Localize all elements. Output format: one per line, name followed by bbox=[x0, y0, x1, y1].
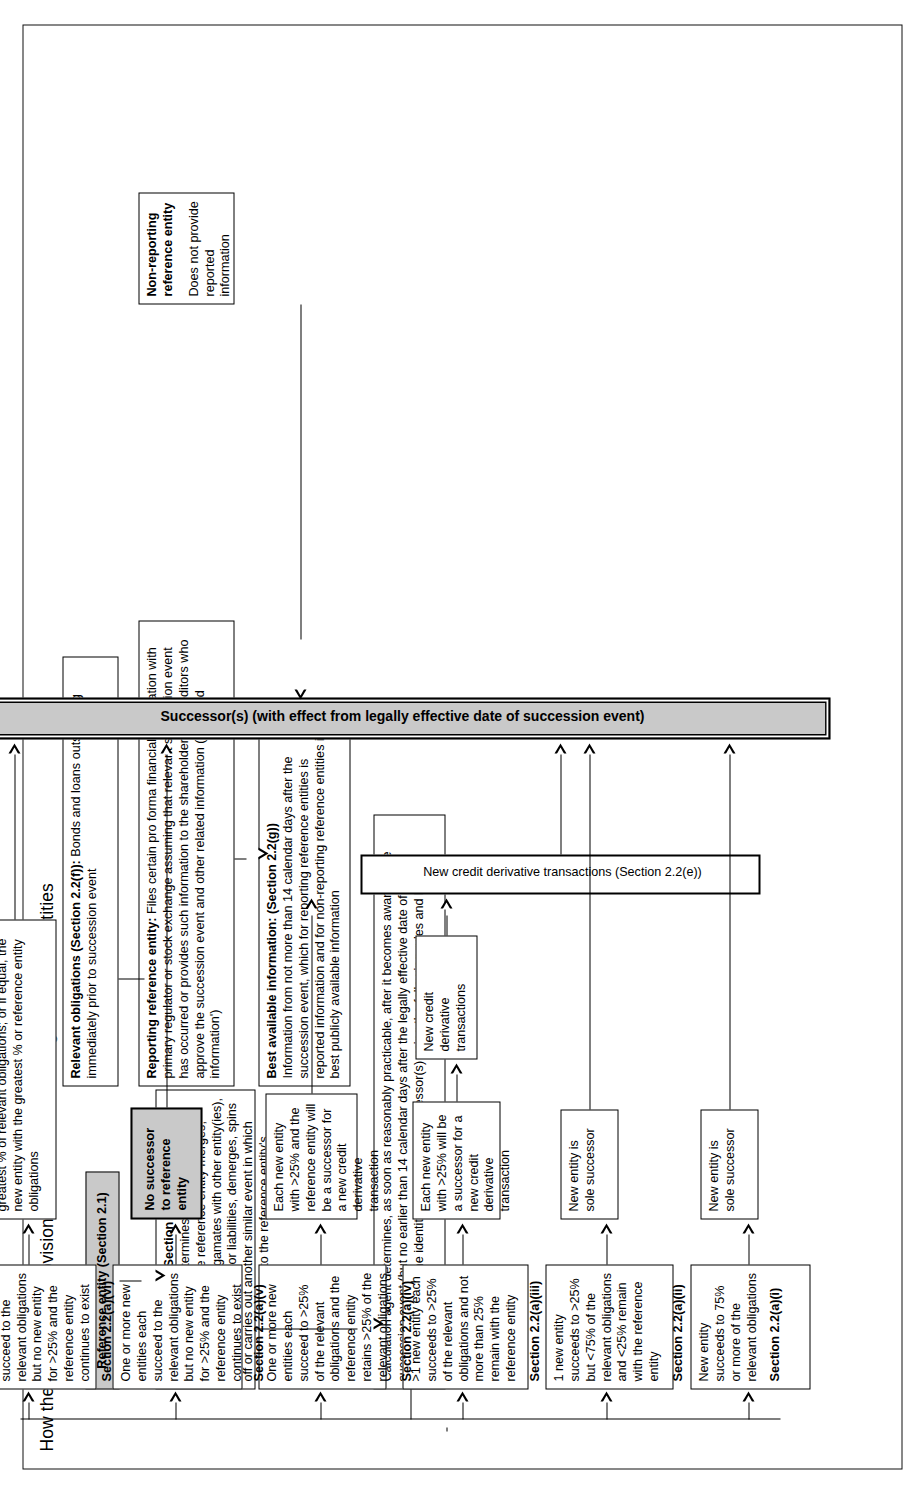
node-rule-2-2-a-vi[interactable]: One or more new entities each succeed to… bbox=[0, 1264, 96, 1389]
node-new-credit-derivative-transactions-small-body: New credit derivative transactions bbox=[421, 943, 469, 1051]
connector-spine-to-rule-iii bbox=[462, 1401, 463, 1419]
node-rule-2-2-a-v-body: One or more new entities each succeed to… bbox=[118, 1272, 245, 1381]
arrow-rule-iii bbox=[456, 1391, 468, 1401]
connector-spine-to-rule-iv bbox=[320, 1401, 321, 1419]
node-rule-2-2-a-iv[interactable]: One or more new entities each succeed to… bbox=[258, 1264, 386, 1389]
connector-outcome-iv-to-ncdt bbox=[311, 915, 312, 1093]
node-rule-2-2-a-vi-body: One or more new entities each succeed to… bbox=[0, 1272, 93, 1381]
connector-succession-to-calc bbox=[255, 1328, 357, 1329]
connector-relobs-down bbox=[118, 978, 144, 979]
node-rule-2-2-a-v[interactable]: One or more new entities each succeed to… bbox=[112, 1264, 242, 1389]
connector-outcome-v-to-successors bbox=[166, 753, 167, 1107]
node-outcome-new-entity-and-ref-entity-successor[interactable]: Each new entity with >25% and the refere… bbox=[265, 1093, 357, 1219]
diagram-canvas: How the succession provisions work for n… bbox=[0, 0, 923, 1499]
arrow-outcome-iii-to-ncdt-small bbox=[450, 1063, 462, 1073]
connector-ncdt-to-successors bbox=[560, 753, 561, 854]
node-rule-2-2-a-i[interactable]: New entity succeeds to 75% or more of th… bbox=[690, 1264, 810, 1389]
node-non-reporting-reference-entity[interactable]: Non-reporting reference entity Does not … bbox=[138, 192, 234, 304]
arrow-outcome-iv-to-ncdt bbox=[305, 898, 317, 908]
connector-outcome-iii-to-ncdt-small bbox=[456, 1073, 457, 1101]
connector-spine-to-rule-v bbox=[175, 1401, 176, 1419]
node-non-reporting-reference-entity-body: Does not provide reported information bbox=[186, 200, 234, 296]
arrow-ncdt-small-to-ncdt bbox=[440, 898, 452, 908]
arrow-outcome-v bbox=[169, 1223, 181, 1233]
connector-outcome-ii-to-successors bbox=[589, 753, 590, 1109]
connector-calc-to-spine bbox=[410, 1389, 411, 1419]
diagram-page: How the succession provisions work for n… bbox=[0, 0, 923, 1499]
node-outcome-sole-successor-ii[interactable]: New entity is sole successor bbox=[560, 1109, 618, 1219]
node-non-reporting-reference-entity-heading: Non-reporting reference entity bbox=[144, 200, 176, 296]
node-outcome-new-entity-25-successor[interactable]: Each new entity with >25% will be a succ… bbox=[412, 1101, 500, 1219]
arrow-outcome-ii bbox=[600, 1223, 612, 1233]
arrow-outcome-vi bbox=[22, 1223, 34, 1233]
connector-rules-spine bbox=[20, 1418, 780, 1419]
node-rule-2-2-a-i-body: New entity succeeds to 75% or more of th… bbox=[696, 1272, 759, 1381]
arrow-rule-iv bbox=[314, 1391, 326, 1401]
node-outcome-no-successor[interactable]: No successor to reference entity bbox=[130, 1107, 202, 1219]
node-rule-2-2-a-iv-section: Section 2.2(a)(iv) bbox=[399, 1272, 415, 1381]
arrow-nonreporting-to-bai bbox=[294, 689, 306, 699]
node-rule-2-2-a-iii[interactable]: >1 new entity each succeeds to >25% of t… bbox=[402, 1264, 528, 1389]
node-rule-2-2-a-vi-section: Section 2.2(a)(vi) bbox=[99, 1272, 115, 1381]
node-outcome-new-entity-and-ref-entity-successor-body: Each new entity with >25% and the refere… bbox=[271, 1101, 382, 1211]
arrow-outcome-iv bbox=[314, 1223, 326, 1233]
node-best-available-information-heading: Best available information: (Section 2.2… bbox=[264, 708, 280, 1078]
node-successors[interactable]: Successor(s) (with effect from legally e… bbox=[0, 697, 830, 739]
arrow-reporting-to-bai bbox=[258, 847, 268, 859]
connector-rule-ii-to-outcome bbox=[606, 1233, 607, 1264]
node-rule-2-2-a-ii-section: Section 2.2(a)(ii) bbox=[670, 1272, 686, 1381]
arrow-outcome-vi-to-successors bbox=[8, 743, 20, 753]
node-rule-2-2-a-v-section: Section 2.2(a)(v) bbox=[251, 1272, 267, 1381]
rotated-diagram-wrapper: How the succession provisions work for n… bbox=[0, 0, 923, 1499]
connector-rule-iv-to-outcome bbox=[320, 1233, 321, 1264]
connector-outcome-i-to-successors bbox=[729, 753, 730, 1109]
connector-ncdt-small-to-ncdt bbox=[446, 915, 447, 935]
node-outcome-sole-successor-ii-body: New entity is sole successor bbox=[566, 1117, 598, 1211]
connector-spine-to-rule-vi bbox=[28, 1401, 29, 1419]
arrow-outcome-i bbox=[742, 1223, 754, 1233]
node-reporting-reference-entity[interactable]: Reporting reference entity: Files certai… bbox=[138, 620, 234, 1086]
connector-rule-i-to-outcome bbox=[748, 1233, 749, 1264]
arrow-outcome-ii-to-successors bbox=[583, 743, 595, 753]
node-rule-2-2-a-i-section: Section 2.2(a)(i) bbox=[767, 1272, 783, 1381]
connector-rule-v-to-outcome bbox=[175, 1233, 176, 1264]
node-new-credit-derivative-transactions-small[interactable]: New credit derivative transactions bbox=[415, 935, 477, 1059]
connector-rule-vi-to-outcome bbox=[28, 1233, 29, 1264]
node-outcome-greatest-percentage-successor[interactable]: Successor is new entity which succeeds t… bbox=[0, 919, 56, 1219]
node-new-credit-derivative-transactions-label: New credit derivative transactions (Sect… bbox=[423, 864, 702, 880]
connector-nonreporting-to-bai bbox=[300, 304, 301, 639]
arrow-rule-v bbox=[169, 1391, 181, 1401]
connector-rule-iii-to-outcome bbox=[462, 1233, 463, 1264]
node-outcome-new-entity-25-successor-body: Each new entity with >25% will be a succ… bbox=[418, 1109, 513, 1211]
node-best-available-information[interactable]: Best available information: (Section 2.2… bbox=[258, 700, 350, 1086]
arrow-rule-vi bbox=[22, 1391, 34, 1401]
arrow-succession-to-calc bbox=[373, 1317, 383, 1329]
node-successors-label: Successor(s) (with effect from legally e… bbox=[160, 707, 644, 725]
node-rule-2-2-a-ii[interactable]: 1 new entity succeeds to >25% but <75% o… bbox=[545, 1264, 673, 1389]
connector-spine-to-rule-i bbox=[748, 1401, 749, 1419]
connector-spine-to-rule-ii bbox=[606, 1401, 607, 1419]
arrow-outcome-i-to-successors bbox=[723, 743, 735, 753]
node-outcome-sole-successor-i-body: New entity is sole successor bbox=[706, 1117, 738, 1211]
node-new-credit-derivative-transactions[interactable]: New credit derivative transactions (Sect… bbox=[360, 854, 760, 894]
connector-outcome-vi-to-successors bbox=[14, 753, 15, 919]
node-outcome-greatest-percentage-successor-body: Successor is new entity which succeeds t… bbox=[0, 927, 41, 1211]
node-outcome-no-successor-body: No successor to reference entity bbox=[142, 1116, 190, 1210]
node-rule-2-2-a-ii-body: 1 new entity succeeds to >25% but <75% o… bbox=[551, 1272, 662, 1381]
node-reporting-reference-entity-heading: Reporting reference entity: bbox=[144, 917, 158, 1078]
arrow-ref-to-succession bbox=[155, 1269, 165, 1281]
arrow-rule-ii bbox=[600, 1391, 612, 1401]
node-outcome-sole-successor-i[interactable]: New entity is sole successor bbox=[700, 1109, 758, 1219]
connector-ref-to-succession bbox=[119, 1280, 141, 1281]
node-rule-2-2-a-iii-body: >1 new entity each succeeds to >25% of t… bbox=[408, 1272, 519, 1381]
connector-calc-spine bbox=[446, 1427, 447, 1431]
arrow-ncdt-to-successors bbox=[554, 743, 566, 753]
connector-reporting-to-bai bbox=[234, 858, 246, 859]
node-rule-2-2-a-iii-section: Section 2.2(a)(iii) bbox=[527, 1272, 543, 1381]
arrow-outcome-iii bbox=[456, 1223, 468, 1233]
arrow-rule-i bbox=[742, 1391, 754, 1401]
arrow-outcome-v-to-successors bbox=[160, 743, 172, 753]
